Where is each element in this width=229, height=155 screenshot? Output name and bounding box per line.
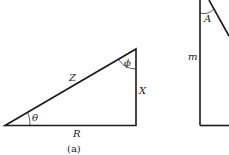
label-phi: ϕ (124, 57, 131, 68)
label-theta: θ (32, 112, 38, 123)
label-a: A (203, 13, 211, 24)
label-x: X (138, 85, 147, 96)
theta-angle-arc (28, 113, 30, 126)
triangle-b: A m (188, 0, 229, 126)
caption-a: (a) (67, 143, 81, 154)
label-r: R (72, 128, 81, 139)
triangle-a-outline (5, 49, 136, 126)
diagram-canvas: Z X R θ ϕ (a) A m (0, 0, 229, 155)
triangle-b-hypotenuse (209, 0, 229, 36)
triangle-a: Z X R θ ϕ (a) (5, 49, 147, 154)
label-m: m (188, 51, 197, 62)
label-z: Z (68, 72, 77, 83)
